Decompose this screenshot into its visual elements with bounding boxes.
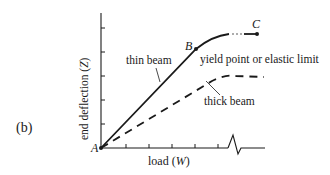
- thick-beam-curve: [101, 76, 264, 148]
- yield-point-label: yield point or elastic limit: [200, 53, 320, 66]
- point-a-marker: [99, 146, 103, 150]
- point-b-marker: [194, 47, 198, 51]
- point-a-label: A: [90, 141, 99, 155]
- deflection-load-diagram: (b) end deflection (Z) load (W) A B C: [0, 0, 330, 175]
- thin-beam-label: thin beam: [126, 54, 172, 66]
- axis-break-icon: [228, 135, 265, 154]
- x-axis: [101, 135, 265, 154]
- thin-beam-leader: [156, 68, 160, 82]
- thick-beam-label: thick beam: [204, 95, 255, 107]
- y-axis: [101, 13, 105, 148]
- y-axis-label: end deflection (Z): [78, 57, 91, 140]
- point-c-label: C: [252, 17, 261, 31]
- thick-beam-leader: [206, 81, 220, 95]
- point-b-label: B: [185, 39, 193, 53]
- point-c-marker: [255, 32, 259, 36]
- panel-label: (b): [16, 120, 33, 136]
- x-axis-label: load (W): [148, 154, 190, 168]
- thin-beam-curve: [101, 33, 257, 148]
